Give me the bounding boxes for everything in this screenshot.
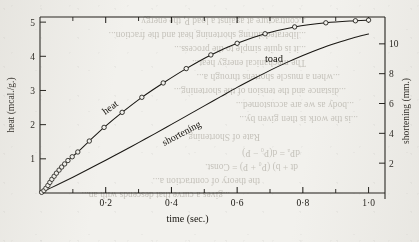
bleed-through-line: ...is the work is then given by...: [239, 114, 358, 124]
right-axis-tick-label: 6: [389, 99, 394, 109]
left-axis-tick-label: 4: [30, 52, 35, 62]
data-point-marker: [235, 41, 239, 45]
left-axis-tick-label: 2: [30, 120, 35, 130]
right-axis-title: shortening (mm.): [401, 78, 412, 144]
data-point-marker: [353, 19, 357, 23]
right-axis-tick-label: 8: [389, 69, 394, 79]
bleed-through-line: dPₐ = d(P₀ − P): [242, 147, 300, 158]
bleed-through-line: the theory of contraction a...: [153, 176, 260, 186]
data-point-marker: [366, 18, 370, 22]
bleed-through-line: ...body as we are accustomed...: [236, 100, 354, 110]
bleed-through-line: ...when a muscle shortens through a...: [197, 72, 340, 82]
x-axis-tick-label: 0·8: [297, 198, 310, 208]
left-axis-tick-label: 3: [30, 86, 35, 96]
data-point-marker: [292, 25, 296, 29]
data-point-marker: [66, 158, 70, 162]
x-axis-tick-label: 0·2: [99, 198, 112, 208]
right-axis-tick-label: 10: [389, 39, 399, 49]
data-point-marker: [263, 32, 267, 36]
left-axis-tick-label: 5: [30, 18, 35, 28]
data-point-marker: [209, 53, 213, 57]
data-point-marker: [324, 21, 328, 25]
specimen-label-toad: toad: [265, 53, 284, 64]
bleed-through-line: dt + b) (P₀ + P) = Const.: [205, 161, 298, 172]
x-axis-tick-label: 0·4: [165, 198, 178, 208]
data-point-marker: [120, 110, 124, 114]
x-axis-title: time (sec.): [166, 213, 208, 225]
data-point-marker: [140, 95, 144, 99]
bleed-through-line: Rate of Shortening: [188, 132, 260, 142]
x-axis-tick-label: 0·6: [231, 198, 244, 208]
data-point-marker: [184, 66, 188, 70]
right-axis-tick-label: 2: [389, 159, 394, 169]
figure-container: ...contracture at against a load P, the …: [0, 0, 419, 242]
data-point-marker: [102, 125, 106, 129]
bleed-through-line: The mechanical energy heat...: [192, 58, 306, 68]
left-axis-tick-label: 1: [30, 154, 35, 164]
axis-titles-layer: heat (mcal./g.)shortening (mm.)time (sec…: [6, 77, 412, 225]
x-axis-tick-label: 1·0: [362, 198, 375, 208]
curve-label-heat: heat: [100, 98, 120, 117]
bleed-through-text-layer: ...contracture at against a load P, the …: [82, 16, 358, 200]
right-axis-tick-label: 4: [389, 129, 394, 139]
bleed-through-line: ...liberated during shortening heat and …: [109, 30, 306, 40]
bleed-through-line: ...distance and the tension of the short…: [174, 86, 346, 96]
data-point-marker: [70, 155, 74, 159]
data-point-marker: [161, 81, 165, 85]
chart-svg: ...contracture at against a load P, the …: [0, 0, 419, 242]
data-point-marker: [87, 139, 91, 143]
left-axis-title: heat (mcal./g.): [6, 77, 17, 132]
data-point-marker: [76, 150, 80, 154]
bleed-through-line: ...it is quite simple to the process...: [174, 44, 306, 54]
